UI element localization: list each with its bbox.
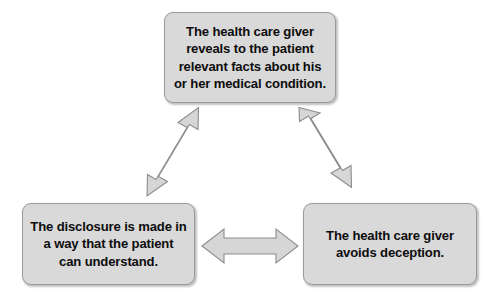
- diagram-node-top: The health care giver reveals to the pat…: [164, 12, 336, 103]
- diagram-node-bottom-right-label: The health care giver avoids deception.: [320, 227, 460, 261]
- diagram-node-top-label: The health care giver reveals to the pat…: [168, 23, 332, 91]
- double-headed-arrow-diagonal-up-right-icon: [140, 104, 210, 200]
- diagram-node-bottom-left: The disclosure is made in a way that the…: [22, 203, 195, 285]
- double-headed-arrow-diagonal-up-left-icon: [288, 104, 358, 200]
- double-headed-arrow-horizontal-icon: [200, 226, 300, 266]
- diagram-node-bottom-right: The health care giver avoids deception.: [303, 203, 477, 285]
- diagram-canvas: The health care giver reveals to the pat…: [0, 0, 497, 301]
- diagram-node-bottom-left-label: The disclosure is made in a way that the…: [24, 218, 192, 269]
